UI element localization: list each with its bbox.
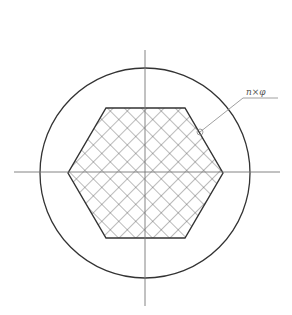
callout-label: n×φ xyxy=(246,87,266,97)
technical-drawing: n×φ xyxy=(0,0,292,315)
hexagon-section xyxy=(68,108,223,238)
